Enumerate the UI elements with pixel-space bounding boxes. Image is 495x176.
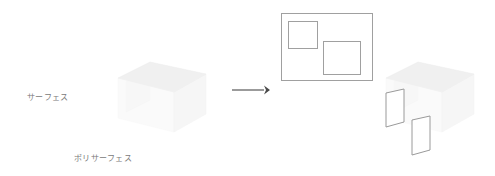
boundary-rectangle-stage xyxy=(0,0,495,176)
inner-square-2 xyxy=(324,42,361,75)
label-polysurface: ポリサーフェス xyxy=(74,154,132,164)
surface-boundary-rectangle xyxy=(282,14,373,81)
diagram-canvas: サーフェス ポリサーフェス xyxy=(0,0,495,176)
outer-rectangle xyxy=(282,14,373,81)
inner-square-1 xyxy=(289,22,318,49)
label-surface: サーフェス xyxy=(27,93,69,103)
